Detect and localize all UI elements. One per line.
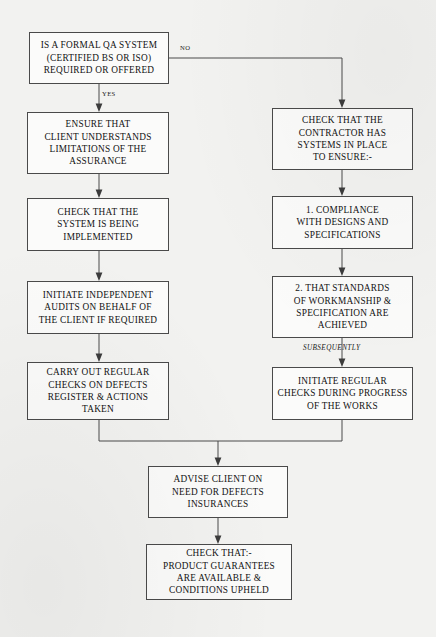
edge-audits-to-carry-out	[96, 334, 103, 362]
compliance-designs-specifications-box[interactable]: 1. COMPLIANCE WITH DESIGNS AND SPECIFICA…	[272, 196, 413, 249]
advise-client-defects-insurances-box[interactable]: ADVISE CLIENT ON NEED FOR DEFECTS INSURA…	[148, 466, 288, 518]
edge-contractor-to-compliance	[339, 170, 346, 196]
edge-ensure-to-check-system	[96, 174, 103, 198]
edge-no-to-contractor	[169, 58, 345, 108]
ensure-client-understands-box[interactable]: ENSURE THAT CLIENT UNDERSTANDS LIMITATIO…	[27, 112, 169, 174]
carry-out-regular-checks-box[interactable]: CARRY OUT REGULAR CHECKS ON DEFECTS REGI…	[27, 362, 169, 420]
edge-compliance-to-standards	[339, 249, 346, 276]
check-product-guarantees-box[interactable]: CHECK THAT:- PRODUCT GUARANTEES ARE AVAI…	[146, 544, 292, 600]
edge-advise-to-guarantees	[215, 518, 222, 544]
edge-merge-rail	[99, 420, 342, 466]
edge-check-system-to-audits	[96, 251, 103, 281]
edge-standards-to-initiate-checks	[339, 338, 346, 367]
initiate-regular-checks-box[interactable]: INITIATE REGULAR CHECKS DURING PROGRESS …	[272, 367, 413, 420]
edge-label-subsequently: SUBSEQUENTLY	[303, 344, 360, 352]
standards-of-workmanship-box[interactable]: 2. THAT STANDARDS OF WORKMANSHIP & SPECI…	[272, 276, 413, 338]
qa-system-decision-box[interactable]: IS A FORMAL QA SYSTEM (CERTIFIED BS OR I…	[29, 32, 169, 84]
edge-label-yes: YES	[102, 90, 116, 97]
edge-yes-to-ensure	[96, 84, 103, 112]
flowchart-canvas: IS A FORMAL QA SYSTEM (CERTIFIED BS OR I…	[0, 0, 436, 637]
edge-label-no: NO	[180, 44, 190, 51]
check-system-implemented-box[interactable]: CHECK THAT THE SYSTEM IS BEING IMPLEMENT…	[27, 198, 169, 251]
initiate-independent-audits-box[interactable]: INITIATE INDEPENDENT AUDITS ON BEHALF OF…	[27, 281, 169, 334]
check-contractor-systems-box[interactable]: CHECK THAT THE CONTRACTOR HAS SYSTEMS IN…	[272, 108, 413, 170]
